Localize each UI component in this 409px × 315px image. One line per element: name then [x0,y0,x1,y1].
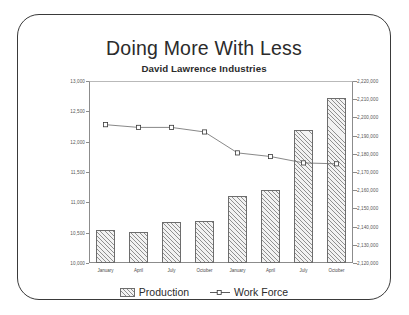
y-axis-right-tick-mark [353,136,357,137]
workforce-data-point [169,125,173,129]
y-axis-right-tick-label: 2,160,000 [357,188,378,193]
x-axis-tick-label: April [134,268,143,273]
y-axis-right-tick-label: 2,180,000 [357,151,378,156]
y-axis-right-tick-mark [353,154,357,155]
y-axis-right-tick-mark [353,190,357,191]
line-series-workforce [89,81,353,263]
y-axis-left-tick-label: 10,000 [70,261,85,266]
y-axis-right-tick-mark [353,99,357,100]
workforce-data-point [235,151,239,155]
x-axis-tick-label: October [196,268,212,273]
y-axis-right-tick-label: 2,210,000 [357,97,378,102]
y-axis-right-tick-mark [353,117,357,118]
y-axis-left-tick-mark [86,263,90,264]
y-axis-right-tick-label: 2,200,000 [357,115,378,120]
x-axis-tick-label: April [266,268,275,273]
chart-legend: Production Work Force [18,286,390,298]
legend-item-production: Production [120,286,189,298]
y-axis-left-tick-label: 10,500 [70,230,85,235]
y-axis-left-tick-label: 13,000 [70,79,85,84]
x-axis-tick-label: January [229,268,245,273]
workforce-data-point [103,123,107,127]
x-axis-tick-label: January [97,268,113,273]
workforce-data-point [136,125,140,129]
y-axis-right-tick-mark [353,227,357,228]
workforce-line-path [106,125,337,164]
legend-item-workforce: Work Force [210,286,288,298]
legend-label-workforce: Work Force [234,286,288,298]
chart-card-frame: Doing More With Less David Lawrence Indu… [17,14,391,300]
y-axis-left-tick-label: 12,000 [70,139,85,144]
y-axis-right-tick-label: 2,170,000 [357,170,378,175]
legend-label-production: Production [139,286,189,298]
y-axis-right-tick-mark [353,208,357,209]
hatched-square-icon [120,288,135,297]
y-axis-left-tick-label: 11,000 [71,200,85,205]
y-axis-right-tick-label: 2,140,000 [357,224,378,229]
y-axis-right-tick-mark [353,263,357,264]
x-axis-tick-label: October [328,268,344,273]
y-axis-right-tick-mark [353,172,357,173]
y-axis-right-tick-mark [353,245,357,246]
x-axis-tick-label: July [167,268,175,273]
chart-subtitle: David Lawrence Industries [18,63,390,74]
y-axis-right-tick-mark [353,81,357,82]
y-axis-right-tick-label: 2,120,000 [357,261,378,266]
workforce-data-point [268,154,272,158]
y-axis-right-tick-label: 2,220,000 [357,79,378,84]
y-axis-right-tick-label: 2,150,000 [357,206,378,211]
x-axis-tick-label: July [299,268,307,273]
y-axis-left-tick-label: 11,500 [71,170,85,175]
chart-title: Doing More With Less [18,37,390,60]
y-axis-left-tick-label: 12,500 [70,109,85,114]
plot-area: 10,00010,50011,00011,50012,00012,50013,0… [89,81,353,263]
line-marker-icon [210,288,230,297]
y-axis-right-tick-label: 2,130,000 [357,242,378,247]
workforce-data-point [334,162,338,166]
workforce-data-point [301,161,305,165]
workforce-data-point [202,130,206,134]
y-axis-right-tick-label: 2,190,000 [357,133,378,138]
